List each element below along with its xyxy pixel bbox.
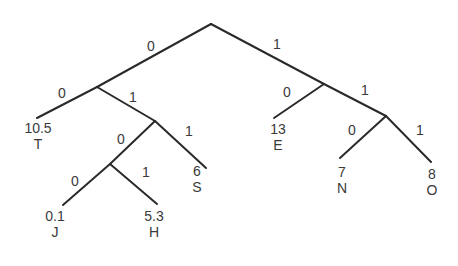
edge-n0-n01 xyxy=(97,87,155,121)
edge-n11-O xyxy=(386,116,431,162)
edge-n01-S xyxy=(155,121,206,168)
edge-bit-label: 0 xyxy=(348,123,356,137)
leaf-weight: 8 xyxy=(427,166,438,182)
leaf-O: 8O xyxy=(427,166,438,198)
edge-bit-label: 1 xyxy=(273,37,281,51)
edge-bit-label: 0 xyxy=(283,85,291,99)
leaf-S: 6S xyxy=(192,163,201,195)
edge-bit-label: 0 xyxy=(147,39,155,53)
leaf-J: 0.1J xyxy=(45,208,64,240)
leaf-symbol: O xyxy=(427,182,438,198)
leaf-symbol: S xyxy=(192,179,201,195)
leaf-H: 5.3H xyxy=(144,208,163,240)
leaf-symbol: J xyxy=(45,224,64,240)
leaf-E: 13E xyxy=(270,121,286,153)
edge-n0-T xyxy=(37,87,97,118)
edge-bit-label: 1 xyxy=(129,90,137,104)
leaf-symbol: N xyxy=(337,180,347,196)
edge-bit-label: 1 xyxy=(142,165,150,179)
edge-n1-n11 xyxy=(324,84,386,116)
leaf-symbol: H xyxy=(144,224,163,240)
edge-n010-J xyxy=(63,164,110,205)
edge-bit-label: 0 xyxy=(117,132,125,146)
edge-root-n1 xyxy=(211,24,324,84)
tree-edges xyxy=(0,0,458,266)
edge-bit-label: 0 xyxy=(58,86,66,100)
edge-bit-label: 1 xyxy=(361,83,369,97)
edge-n11-N xyxy=(340,116,386,158)
leaf-weight: 6 xyxy=(192,163,201,179)
leaf-weight: 0.1 xyxy=(45,208,64,224)
edge-bit-label: 1 xyxy=(416,123,424,137)
edge-bit-label: 0 xyxy=(71,174,79,188)
leaf-N: 7N xyxy=(337,164,347,196)
edge-bit-label: 1 xyxy=(185,124,193,138)
leaf-weight: 13 xyxy=(270,121,286,137)
leaf-symbol: T xyxy=(24,136,51,152)
leaf-weight: 5.3 xyxy=(144,208,163,224)
leaf-T: 10.5T xyxy=(24,120,51,152)
huffman-tree-diagram: 01010101010110.5T6S0.1J5.3H13E7N8O xyxy=(0,0,458,266)
leaf-weight: 10.5 xyxy=(24,120,51,136)
edge-root-n0 xyxy=(97,24,211,87)
leaf-symbol: E xyxy=(270,137,286,153)
edge-n1-E xyxy=(274,84,324,118)
leaf-weight: 7 xyxy=(337,164,347,180)
